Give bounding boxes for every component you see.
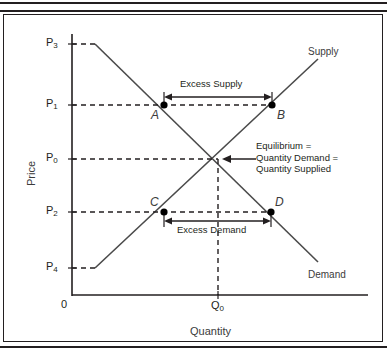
axis-label-p1: P1 <box>46 98 58 109</box>
point-label-d: D <box>275 196 284 208</box>
point-marker-c <box>160 208 167 215</box>
axis-label-q0: Q0 <box>211 300 224 311</box>
equilibrium-annotation: Equilibrium = Quantity Demand = Quantity… <box>256 140 338 175</box>
axis-label-p0: P0 <box>46 152 58 163</box>
excess-demand-label: Excess Demand <box>177 224 246 236</box>
excess-supply-arrow <box>164 92 272 102</box>
axis-label-p2: P2 <box>46 205 58 216</box>
quantity-axis-title: Quantity <box>190 326 231 337</box>
point-label-a: A <box>151 109 159 121</box>
excess-supply-label: Excess Supply <box>180 78 242 90</box>
point-label-b: B <box>277 109 285 121</box>
figure-page: P3 P1 P0 P2 P4 0 Q0 Price Quantity Suppl… <box>0 0 387 360</box>
point-label-c: C <box>150 196 159 208</box>
point-marker-a <box>160 101 167 108</box>
supply-curve-label: Supply <box>308 47 339 57</box>
equilibrium-annotation-line-3: Quantity Supplied <box>256 163 338 175</box>
axis-label-p4: P4 <box>46 261 58 272</box>
point-marker-d <box>267 208 274 215</box>
demand-curve-label: Demand <box>308 270 346 280</box>
axis-label-p3: P3 <box>46 37 58 48</box>
equilibrium-annotation-line-2: Quantity Demand = <box>256 152 338 164</box>
point-marker-b <box>268 101 275 108</box>
origin-label: 0 <box>61 299 67 310</box>
price-axis-title: Price <box>26 161 37 186</box>
equilibrium-annotation-line-1: Equilibrium = <box>256 140 338 152</box>
equilibrium-arrow <box>222 155 256 163</box>
